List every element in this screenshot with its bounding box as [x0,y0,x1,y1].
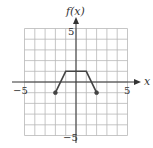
y-axis-arrow-icon [73,17,79,24]
x-axis-label: x [144,75,151,88]
endpoint-dot [54,91,58,95]
x-min-tick-label: −5 [13,85,28,96]
x-max-tick-label: 5 [124,85,130,96]
y-min-tick-label: −5 [63,132,78,143]
x-axis-arrow-icon [134,79,141,85]
endpoint-dot [95,91,99,95]
y-axis-label: f(x) [65,5,85,18]
y-max-tick-label: 5 [68,26,74,37]
axes [12,17,141,143]
function-graph: f(x) x −5 5 5 −5 [0,0,153,148]
